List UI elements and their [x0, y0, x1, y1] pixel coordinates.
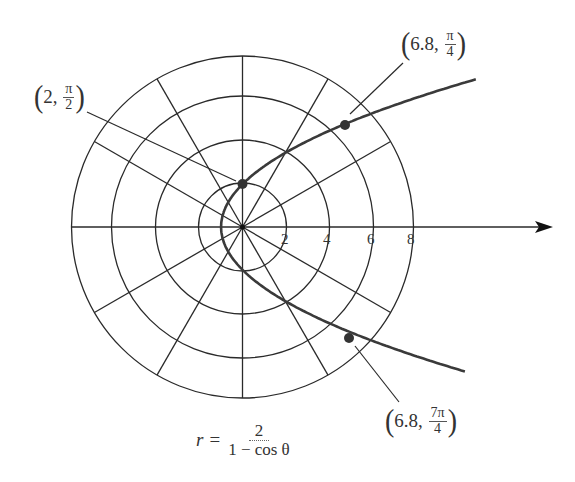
spoke-240deg	[157, 227, 243, 375]
tick-label-2: 2	[281, 231, 289, 248]
theta-numerator: π	[63, 82, 74, 98]
equation-caption: r = 2 1 − cos θ	[196, 422, 293, 459]
tick-label-4: 4	[323, 231, 331, 248]
equation-denominator: 1 − cos θ	[226, 441, 292, 459]
leader-line-point-1	[87, 112, 236, 181]
equation-equals: =	[209, 429, 220, 451]
label-theta-fraction: π4	[445, 29, 456, 59]
label-point-1: (2, π2)	[34, 82, 85, 112]
label-theta-fraction: 7π4	[429, 406, 447, 436]
equation-lhs: r	[196, 429, 203, 451]
spoke-120deg	[157, 79, 243, 227]
spoke-30deg	[243, 142, 391, 228]
theta-numerator: 7π	[429, 406, 447, 422]
label-theta-fraction: π2	[63, 82, 74, 112]
theta-denominator: 4	[432, 422, 443, 437]
label-point-3: (6.8, 7π4)	[385, 406, 457, 436]
equation-fraction: 2 1 − cos θ	[226, 422, 292, 459]
point-2-pi-over-2	[238, 179, 248, 189]
theta-denominator: 4	[445, 45, 456, 60]
theta-numerator: π	[445, 29, 456, 45]
label-point-2: (6.8, π4)	[401, 29, 466, 59]
pole-point	[240, 225, 245, 230]
label-r-value: 6.8	[394, 410, 418, 432]
tick-label-6: 6	[367, 231, 375, 248]
point-6.8-pi-over-4	[340, 120, 350, 130]
label-r-value: 2	[43, 86, 53, 108]
point-6.8-7pi-over-4	[344, 333, 354, 343]
tick-label-8: 8	[407, 231, 415, 248]
label-r-value: 6.8	[410, 33, 434, 55]
leader-line-point-2	[350, 63, 403, 114]
polar-graph-figure: 2 4 6 8 (2, π2) (6.8, π4) (6.8, 7π4) r =…	[0, 0, 575, 482]
spoke-210deg	[94, 227, 242, 313]
equation-numerator: 2	[249, 422, 270, 441]
leader-line-point-3	[355, 346, 399, 402]
spoke-150deg	[94, 142, 242, 228]
theta-denominator: 2	[63, 98, 74, 113]
